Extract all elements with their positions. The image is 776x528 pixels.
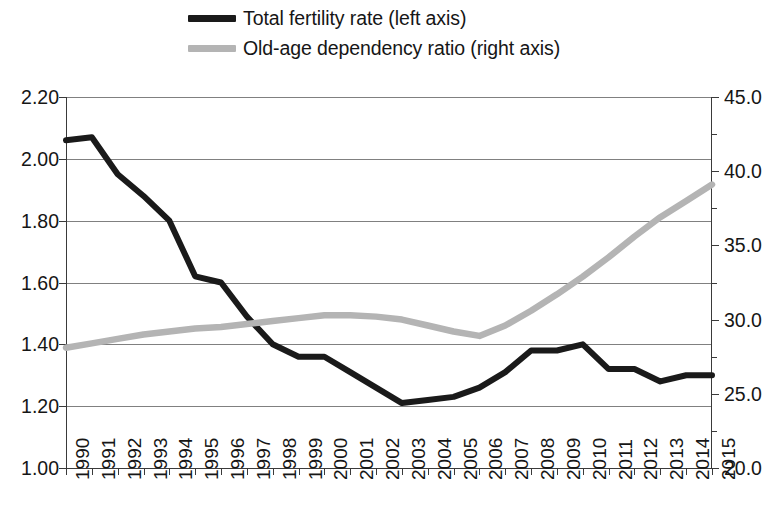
- left-axis-tick-label: 1.40: [1, 334, 59, 354]
- x-axis-tick-label: 1997: [254, 438, 273, 480]
- right-axis-tick-label: 30.0: [724, 310, 776, 330]
- x-axis-tick-label: 1994: [176, 438, 195, 480]
- x-axis-tick-label: 1991: [99, 438, 118, 480]
- x-axis-tick-label: 2009: [564, 438, 583, 480]
- x-axis-tick-label: 2007: [512, 438, 531, 480]
- left-axis-tick-label: 1.80: [1, 211, 59, 231]
- chart-figure: Total fertility rate (left axis) Old-age…: [0, 0, 776, 528]
- x-axis-tick-label: 2013: [667, 438, 686, 480]
- x-axis-tick-label: 2011: [616, 439, 635, 480]
- right-axis-tick-label: 35.0: [724, 235, 776, 255]
- x-axis-tick-label: 2001: [357, 438, 376, 480]
- left-axis-tick-label: 1.00: [1, 458, 59, 478]
- x-axis-tick-label: 2008: [538, 438, 557, 480]
- x-axis-tick-label: 1996: [228, 438, 247, 480]
- left-axis-tick-label: 2.20: [1, 87, 59, 107]
- chart-axis-frame: [66, 97, 712, 469]
- chart-gridlines: [66, 98, 712, 469]
- x-axis-tick-label: 1995: [202, 438, 221, 480]
- right-axis-tick-label: 45.0: [724, 87, 776, 107]
- left-axis-tick-label: 2.00: [1, 149, 59, 169]
- x-axis-tick-label: 1998: [280, 438, 299, 480]
- x-axis-tick-label: 2002: [383, 438, 402, 480]
- left-axis-tick-label: 1.20: [1, 396, 59, 416]
- series-line-old-age-dependency-ratio: [66, 185, 712, 348]
- x-axis-tick-label: 1990: [73, 438, 92, 480]
- chart-series-layer: [66, 137, 712, 403]
- right-axis-tick-label: 40.0: [724, 161, 776, 181]
- x-axis-tick-label: 2012: [641, 438, 660, 480]
- x-axis-tick-label: 2000: [331, 438, 350, 480]
- x-axis-tick-label: 2014: [693, 438, 712, 480]
- x-axis-tick-label: 1993: [151, 438, 170, 480]
- right-axis-tick-label: 25.0: [724, 384, 776, 404]
- x-axis-tick-label: 2004: [435, 438, 454, 480]
- x-axis-tick-label: 2005: [461, 438, 480, 480]
- x-axis-tick-label: 2010: [590, 438, 609, 480]
- x-axis-tick-label: 1992: [125, 438, 144, 480]
- x-axis-tick-label: 1999: [306, 438, 325, 480]
- x-axis-tick-label: 2015: [719, 438, 738, 480]
- left-axis-tick-label: 1.60: [1, 273, 59, 293]
- chart-plot-area: 2.202.001.801.601.401.201.00 45.040.035.…: [0, 0, 776, 528]
- series-line-total-fertility-rate: [66, 137, 712, 403]
- chart-tick-marks: [59, 98, 719, 476]
- x-axis-tick-label: 2006: [486, 438, 505, 480]
- x-axis-tick-label: 2003: [409, 438, 428, 480]
